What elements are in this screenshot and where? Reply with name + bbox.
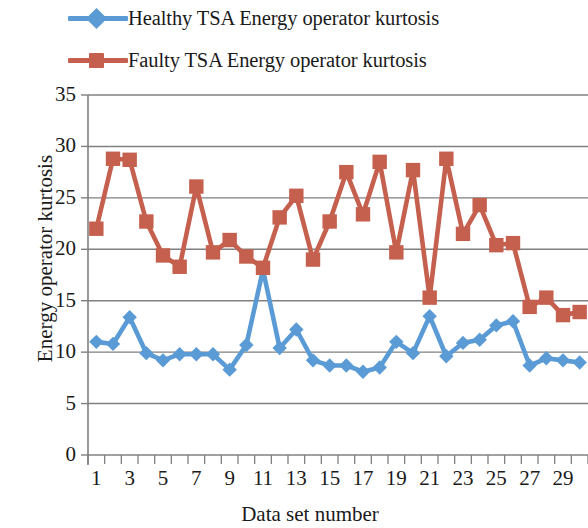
x-tick-label: 9 [224, 468, 235, 489]
chart-root: Healthy TSA Energy operator kurtosis Fau… [0, 0, 588, 528]
chart-legend: Healthy TSA Energy operator kurtosis Fau… [0, 0, 588, 86]
square-icon [89, 53, 104, 68]
x-tick-label: 17 [353, 468, 374, 489]
x-tick-label: 23 [453, 468, 474, 489]
legend-marker-healthy [68, 6, 128, 30]
legend-marker-faulty [68, 48, 128, 72]
plot-area: Energy operator kurtosis 05101520253035 … [0, 86, 588, 528]
legend-item-healthy: Healthy TSA Energy operator kurtosis [68, 2, 439, 34]
x-tick-label: 11 [253, 468, 273, 489]
x-tick-label: 1 [91, 468, 102, 489]
x-tick-label: 7 [191, 468, 202, 489]
x-tick-label: 29 [553, 468, 574, 489]
legend-label-faulty: Faulty TSA Energy operator kurtosis [128, 49, 427, 71]
x-tick-label: 27 [519, 468, 540, 489]
x-axis-tick-labels: 1357911131517192123252729 [0, 86, 588, 528]
x-tick-label: 25 [486, 468, 507, 489]
legend-item-faulty: Faulty TSA Energy operator kurtosis [68, 44, 427, 76]
x-axis-title: Data set number [80, 502, 540, 527]
x-tick-label: 5 [158, 468, 169, 489]
x-tick-label: 15 [319, 468, 340, 489]
x-tick-label: 3 [124, 468, 135, 489]
x-tick-label: 13 [286, 468, 307, 489]
legend-label-healthy: Healthy TSA Energy operator kurtosis [128, 7, 439, 29]
x-tick-label: 21 [419, 468, 440, 489]
x-tick-label: 19 [386, 468, 407, 489]
diamond-icon [86, 8, 107, 29]
